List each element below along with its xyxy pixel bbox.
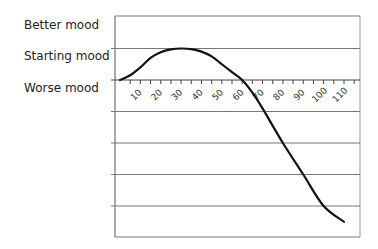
x-tick-label: 10 <box>129 87 144 102</box>
x-tick-label: 20 <box>149 87 164 102</box>
x-tick-label: 80 <box>271 87 286 102</box>
mood-curve <box>120 48 344 221</box>
x-tick-label: 100 <box>310 85 329 104</box>
x-tick-label: 60 <box>230 87 245 102</box>
x-tick-label: 30 <box>169 87 184 102</box>
x-tick-label: 90 <box>292 87 307 102</box>
x-tick-label: 50 <box>210 87 225 102</box>
mood-line-chart: 102030405060708090100110 <box>0 0 378 249</box>
x-tick-label: 110 <box>330 85 349 104</box>
x-tick-label: 40 <box>190 87 205 102</box>
